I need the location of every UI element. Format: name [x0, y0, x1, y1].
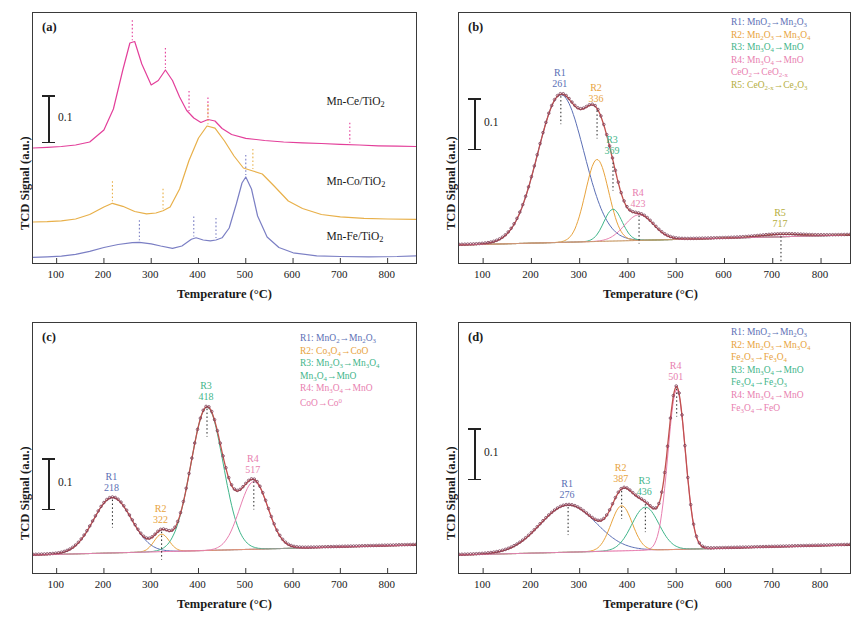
panel-d-legend: R1: MnO2→Mn2O3R2: Mn2O3→Mn3O4Fe2O3→Fe3O4… — [731, 326, 810, 414]
scalebar-value-b: 0.1 — [484, 116, 498, 128]
panel-d: TCD Signal (a.u.) (d) 0.1 10020030040050… — [426, 310, 851, 618]
x-tick-100: 100 — [465, 578, 499, 590]
panel-c: TCD Signal (a.u.) (c) 0.1 10020030040050… — [0, 310, 425, 618]
x-tick-800: 800 — [370, 268, 404, 280]
legend-item-r3b: Fe3O4→Fe2O3 — [731, 376, 810, 389]
panel-b-scalebar: 0.1 — [468, 98, 528, 150]
panel-a: TCD Signal (a.u.) (a) 0.1 10020030040050… — [0, 0, 425, 308]
panel-d-xlabel: Temperature (°C) — [458, 597, 843, 612]
x-tick-400: 400 — [180, 578, 214, 590]
x-tick-400: 400 — [180, 268, 214, 280]
peak-label-r3: R3436 — [628, 475, 660, 497]
x-tick-500: 500 — [228, 578, 262, 590]
peak-id: R4 — [247, 453, 259, 464]
x-tick-400: 400 — [610, 268, 644, 280]
x-tick-800: 800 — [803, 578, 837, 590]
peak-id: R2 — [155, 503, 167, 514]
tpr-figure: TCD Signal (a.u.) (a) 0.1 10020030040050… — [0, 0, 851, 618]
legend-item-r4: R4: Mn3O4→MnO — [300, 382, 379, 395]
peak-temperature: 423 — [631, 198, 646, 209]
curve-label-mn-ce-tio2: Mn-Ce/TiO2 — [327, 95, 385, 109]
legend-item-r2b: Fe2O3→Fe3O4 — [731, 351, 810, 364]
x-tick-300: 300 — [133, 268, 167, 280]
legend-item-r1: R1: MnO2→Mn2O3 — [300, 332, 379, 345]
legend-item-r1: R1: MnO2→Mn2O3 — [731, 16, 810, 29]
x-tick-100: 100 — [39, 578, 73, 590]
panel-b: TCD Signal (a.u.) (b) 0.1 10020030040050… — [426, 0, 851, 308]
x-tick-500: 500 — [658, 578, 692, 590]
peak-temperature: 501 — [668, 371, 683, 382]
scalebar-value-a: 0.1 — [58, 111, 72, 123]
panel-d-tag: (d) — [468, 330, 483, 345]
x-tick-700: 700 — [322, 578, 356, 590]
peak-label-r2: R2322 — [145, 503, 177, 525]
legend-item-r2: R2: Co3O4→CoO — [300, 345, 379, 358]
peak-id: R4 — [632, 187, 644, 198]
legend-item-r4b: CoO→Co0 — [300, 395, 379, 408]
peak-id: R1 — [561, 478, 573, 489]
peak-temperature: 418 — [199, 391, 214, 402]
x-tick-800: 800 — [370, 578, 404, 590]
curve-label-mn-fe-tio2: Mn-Fe/TiO2 — [327, 230, 384, 244]
x-tick-200: 200 — [513, 268, 547, 280]
curve-label-mn-co-tio2: Mn-Co/TiO2 — [327, 175, 386, 189]
x-tick-600: 600 — [275, 268, 309, 280]
panel-d-scalebar: 0.1 — [468, 428, 528, 480]
peak-label-r5: R5717 — [764, 207, 796, 229]
legend-item-r4: R4: Mn3O4→MnO — [731, 389, 810, 402]
peak-temperature: 387 — [613, 473, 628, 484]
legend-item-r4b: Fe3O4→FeO — [731, 402, 810, 415]
legend-item-r2: R2: Mn2O3→Mn3O4 — [731, 29, 810, 42]
panel-a-tag: (a) — [42, 20, 57, 35]
peak-id: R3 — [606, 134, 618, 145]
x-tick-800: 800 — [803, 268, 837, 280]
panel-c-scalebar: 0.1 — [42, 458, 102, 510]
legend-item-r2: R2: Mn2O3→Mn3O4 — [731, 339, 810, 352]
legend-item-r3: R3: Mn2O3→Mn3O4 — [300, 357, 379, 370]
peak-label-r1: R1261 — [544, 67, 576, 89]
peak-temperature: 276 — [560, 489, 575, 500]
x-tick-100: 100 — [465, 268, 499, 280]
peak-label-r3: R3418 — [190, 380, 222, 402]
peak-id: R3 — [200, 380, 212, 391]
panel-d-ylabel: TCD Signal (a.u.) — [444, 446, 459, 540]
peak-label-r3: R3369 — [596, 134, 628, 156]
legend-item-r3b: Mn3O4→MnO — [300, 370, 379, 383]
peak-id: R4 — [670, 360, 682, 371]
x-tick-600: 600 — [706, 268, 740, 280]
peak-temperature: 517 — [245, 464, 260, 475]
peak-temperature: 322 — [153, 514, 168, 525]
x-tick-400: 400 — [610, 578, 644, 590]
x-tick-200: 200 — [86, 268, 120, 280]
peak-temperature: 261 — [552, 78, 567, 89]
x-tick-200: 200 — [86, 578, 120, 590]
panel-b-tag: (b) — [468, 20, 483, 35]
x-tick-600: 600 — [706, 578, 740, 590]
x-tick-500: 500 — [658, 268, 692, 280]
legend-item-r3: R3: Mn3O4→MnO — [731, 364, 810, 377]
x-tick-700: 700 — [755, 268, 789, 280]
peak-id: R1 — [106, 471, 118, 482]
panel-c-tag: (c) — [42, 330, 56, 345]
x-tick-300: 300 — [133, 578, 167, 590]
x-tick-100: 100 — [39, 268, 73, 280]
legend-item-r4: R4: Mn3O4→MnO — [731, 54, 810, 67]
x-tick-600: 600 — [275, 578, 309, 590]
legend-item-r5: R5: CeO2-x→Ce2O3 — [731, 79, 810, 92]
panel-c-legend: R1: MnO2→Mn2O3R2: Co3O4→CoOR3: Mn2O3→Mn3… — [300, 332, 379, 408]
panel-c-xlabel: Temperature (°C) — [32, 597, 417, 612]
panel-c-ylabel: TCD Signal (a.u.) — [18, 446, 33, 540]
peak-id: R2 — [615, 462, 627, 473]
peak-id: R5 — [774, 207, 786, 218]
peak-label-r1: R1218 — [95, 471, 127, 493]
x-tick-300: 300 — [562, 268, 596, 280]
x-tick-300: 300 — [562, 578, 596, 590]
peak-id: R1 — [554, 67, 566, 78]
peak-label-r2: R2336 — [580, 82, 612, 104]
peak-temperature: 369 — [604, 145, 619, 156]
scalebar-value-c: 0.1 — [58, 476, 72, 488]
legend-item-r3: R3: Mn3O4→MnO — [731, 41, 810, 54]
panel-a-xlabel: Temperature (°C) — [32, 287, 417, 302]
peak-id: R2 — [590, 82, 602, 93]
peak-temperature: 218 — [104, 482, 119, 493]
